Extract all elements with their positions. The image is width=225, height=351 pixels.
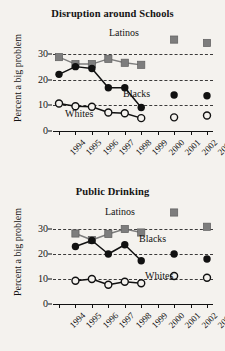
- x-tick-label: 1995: [85, 138, 104, 157]
- x-tick-mark: [108, 304, 109, 308]
- x-tick-mark: [59, 131, 60, 135]
- data-point-square: [171, 36, 178, 43]
- series-label-whites: Whites: [65, 108, 93, 119]
- y-tick-mark: [48, 131, 52, 132]
- x-tick-mark: [174, 131, 175, 135]
- data-point-filled-circle: [138, 104, 145, 111]
- x-tick-label: 2002: [200, 311, 219, 330]
- data-point-filled-circle: [121, 241, 128, 248]
- data-point-filled-circle: [72, 243, 79, 250]
- x-tick-label: 1997: [118, 311, 137, 330]
- plot-area: 0102030199419951996199719981999200020012…: [53, 28, 213, 131]
- data-point-filled-circle: [170, 250, 177, 257]
- data-point-square: [171, 209, 178, 216]
- chart-title: Disruption around Schools: [0, 8, 225, 19]
- x-tick-mark: [59, 304, 60, 308]
- data-point-filled-circle: [170, 91, 177, 98]
- x-tick-mark: [75, 131, 76, 135]
- x-tick-label: 1999: [150, 138, 169, 157]
- data-point-filled-circle: [138, 257, 145, 264]
- x-tick-mark: [158, 304, 159, 308]
- series-label-blacks: Blacks: [123, 88, 150, 99]
- data-point-square: [72, 230, 79, 237]
- data-point-square: [121, 59, 128, 66]
- data-point-filled-circle: [203, 92, 210, 99]
- data-point-open-circle: [138, 280, 145, 287]
- x-tick-label: 1999: [150, 311, 169, 330]
- figure-page: Disruption around Schools Percent a big …: [0, 0, 225, 351]
- x-tick-mark: [125, 304, 126, 308]
- y-tick-label: 20: [38, 249, 48, 259]
- x-tick-label: 2002: [200, 138, 219, 157]
- data-point-filled-circle: [88, 65, 95, 72]
- chart-panel-disruption-around-schools: Disruption around Schools Percent a big …: [0, 0, 225, 176]
- data-point-filled-circle: [203, 255, 210, 262]
- y-tick-mark: [48, 279, 52, 280]
- x-tick-mark: [125, 131, 126, 135]
- series-latinos: [55, 36, 210, 68]
- data-point-open-circle: [72, 277, 79, 284]
- y-tick-label: 10: [38, 274, 48, 284]
- data-point-square: [138, 61, 145, 68]
- x-axis-line: [53, 304, 213, 305]
- y-tick-mark: [48, 229, 52, 230]
- data-point-square: [203, 39, 210, 46]
- data-point-square: [121, 225, 128, 232]
- y-tick-label: 30: [38, 224, 48, 234]
- y-tick-mark: [48, 304, 52, 305]
- x-tick-mark: [207, 131, 208, 135]
- data-point-open-circle: [105, 109, 112, 116]
- x-tick-label: 1997: [118, 138, 137, 157]
- x-tick-mark: [108, 131, 109, 135]
- y-tick-mark: [48, 79, 52, 80]
- data-point-open-circle: [88, 276, 95, 283]
- x-axis-line: [53, 131, 213, 132]
- data-point-open-circle: [105, 281, 112, 288]
- x-tick-mark: [191, 304, 192, 308]
- data-point-open-circle: [138, 115, 145, 122]
- x-tick-label: 2001: [183, 138, 202, 157]
- x-tick-mark: [207, 304, 208, 308]
- plot-area: 0102030199419951996199719981999200020012…: [53, 204, 213, 304]
- x-tick-label: 2003: [216, 138, 225, 157]
- x-tick-mark: [92, 131, 93, 135]
- series-label-blacks: Blacks: [139, 233, 166, 244]
- x-tick-mark: [141, 131, 142, 135]
- y-axis-label: Percent a big problem: [12, 23, 23, 133]
- series-whites: [72, 273, 211, 289]
- y-tick-label: 30: [38, 49, 48, 59]
- series-label-latinos: Latinos: [105, 206, 135, 217]
- series-layer: [53, 204, 213, 304]
- y-tick-mark: [48, 254, 52, 255]
- data-point-square: [55, 53, 62, 60]
- y-tick-label: 20: [38, 75, 48, 85]
- chart-panel-public-drinking: Public Drinking Percent a big problem 01…: [0, 176, 225, 351]
- series-label-latinos: Latinos: [109, 27, 139, 38]
- x-tick-label: 1995: [85, 311, 104, 330]
- data-point-open-circle: [56, 100, 63, 107]
- y-tick-mark: [48, 53, 52, 54]
- data-point-square: [105, 55, 112, 62]
- series-line: [59, 57, 141, 65]
- y-tick-mark: [48, 105, 52, 106]
- data-point-open-circle: [121, 278, 128, 285]
- data-point-filled-circle: [72, 63, 79, 70]
- y-tick-label: 10: [38, 100, 48, 110]
- x-tick-label: 2001: [183, 311, 202, 330]
- data-point-filled-circle: [88, 237, 95, 244]
- data-point-filled-circle: [105, 250, 112, 257]
- data-point-filled-circle: [105, 84, 112, 91]
- data-point-open-circle: [204, 274, 211, 281]
- x-tick-mark: [191, 131, 192, 135]
- data-point-open-circle: [204, 112, 211, 119]
- data-point-square: [105, 230, 112, 237]
- x-tick-mark: [92, 304, 93, 308]
- data-point-filled-circle: [55, 71, 62, 78]
- y-axis-label: Percent a big problem: [12, 197, 23, 307]
- data-point-open-circle: [171, 114, 178, 121]
- x-tick-label: 2003: [216, 311, 225, 330]
- data-point-open-circle: [121, 110, 128, 117]
- x-tick-mark: [75, 304, 76, 308]
- x-tick-mark: [141, 304, 142, 308]
- x-tick-mark: [174, 304, 175, 308]
